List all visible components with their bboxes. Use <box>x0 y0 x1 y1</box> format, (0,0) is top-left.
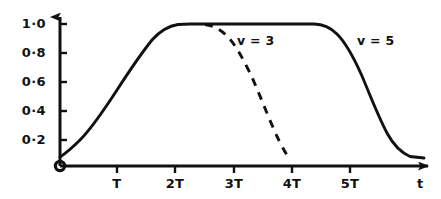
x-axis-name: t <box>417 176 423 191</box>
chart-figure: 1·0 0·8 0·6 0·4 0·2 T 2T 3T 4T 5T t v = … <box>0 0 441 199</box>
series-label-v3: v = 3 <box>237 33 275 48</box>
y-tick-label-0-8: 0·8 <box>8 45 46 60</box>
x-tick-label-T: T <box>102 176 132 191</box>
plot-canvas <box>0 0 441 199</box>
x-tick-label-3T: 3T <box>219 176 249 191</box>
y-tick-label-0-6: 0·6 <box>8 74 46 89</box>
x-tick-label-4T: 4T <box>277 176 307 191</box>
y-tick-label-1-0: 1·0 <box>8 16 46 31</box>
x-tick-label-2T: 2T <box>160 176 190 191</box>
x-tick-label-5T: 5T <box>335 176 365 191</box>
series-label-v5: v = 5 <box>357 33 395 48</box>
y-tick-label-0-2: 0·2 <box>8 132 46 147</box>
y-tick-label-0-4: 0·4 <box>8 103 46 118</box>
